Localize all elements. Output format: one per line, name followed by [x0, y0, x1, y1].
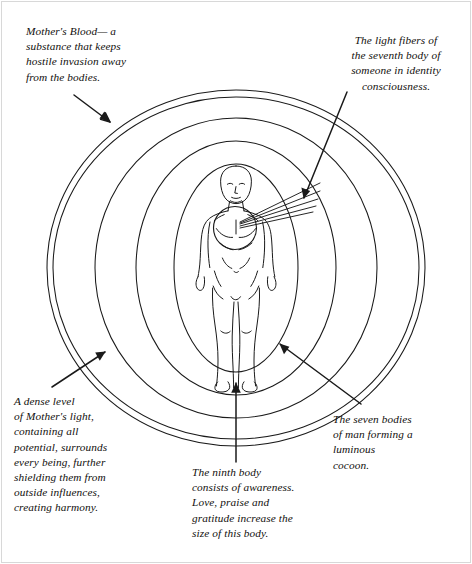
navel [234, 271, 239, 272]
head-outline [221, 166, 252, 204]
hand-right [267, 277, 276, 291]
pectoral-left [216, 229, 232, 238]
heart-circle [214, 207, 257, 250]
abdomen-left [222, 258, 231, 268]
arrow-dense-level [52, 352, 106, 387]
knee-right [242, 331, 251, 333]
arrow-ninth-body [231, 382, 241, 462]
leg-left-outer [212, 288, 218, 386]
caption-light-fibers: The light fibers of the seventh body of … [330, 33, 462, 94]
arm-right-inner [263, 222, 265, 268]
leg-right-inner [238, 302, 240, 388]
ring-5 [174, 164, 298, 372]
neck-left [228, 201, 230, 211]
groin [231, 297, 240, 300]
hip-right [249, 286, 259, 299]
waist-left [214, 271, 221, 286]
caption-ninth-body: The ninth body consists of awareness. Lo… [192, 465, 332, 541]
hand-left [196, 277, 205, 291]
knee-left [221, 331, 230, 333]
caption-dense-level: A dense level of Mother's light, contain… [14, 394, 156, 516]
hip-left [213, 286, 223, 299]
neck-right [242, 201, 244, 211]
arrow-mothers-blood [74, 95, 110, 122]
arm-left-inner [208, 222, 210, 268]
leg-left-inner [232, 302, 234, 388]
pectoral-right [239, 229, 255, 238]
ring-3 [95, 118, 377, 418]
chin [230, 201, 241, 203]
leg-right-outer [254, 288, 260, 386]
diagram-page: Mother's Blood— a substance that keeps h… [0, 0, 472, 564]
abdomen-right [240, 258, 250, 268]
mouth [232, 197, 241, 198]
left-eye [227, 183, 232, 184]
waist-right [251, 271, 258, 286]
arrow-light-fibers [301, 92, 347, 199]
torso-left-outline [198, 211, 228, 277]
fiber-2 [240, 191, 320, 223]
central-figure [196, 166, 276, 392]
nose [235, 187, 238, 194]
caption-mothers-blood: Mother's Blood— a substance that keeps h… [26, 24, 176, 85]
ring-4 [136, 141, 336, 395]
caption-seven-bodies: The seven bodies of man forming a lumino… [333, 412, 463, 473]
right-eye [239, 183, 244, 184]
